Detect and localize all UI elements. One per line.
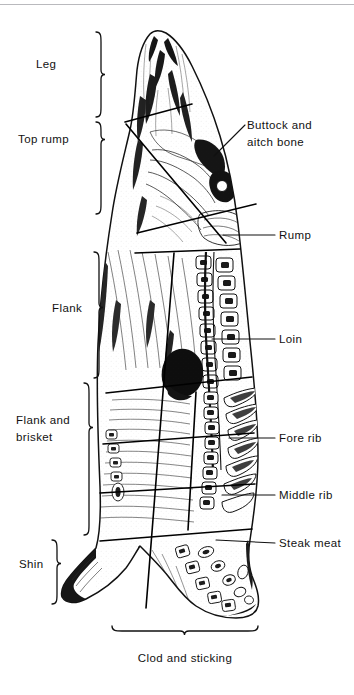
label-flank-and-brisket-line1: Flank and: [16, 413, 70, 427]
bracket-shin: [52, 540, 61, 604]
label-middle-rib: Middle rib: [279, 488, 333, 502]
bracket-flank-brisket: [84, 383, 93, 535]
label-rump: Rump: [279, 228, 311, 242]
label-flank-and-brisket-line2: brisket: [16, 430, 53, 444]
label-leg: Leg: [36, 57, 56, 71]
label-fore-rib: Fore rib: [279, 431, 322, 445]
label-shin: Shin: [19, 557, 44, 571]
bracket-top-rump: [96, 122, 105, 214]
bracket-clod-sticking: [112, 626, 258, 635]
label-clod-and-sticking: Clod and sticking: [105, 651, 265, 665]
bottom-bracket: [112, 626, 258, 635]
label-flank: Flank: [52, 301, 82, 315]
diagram-page: Leg Top rump Flank Flank and brisket Shi…: [0, 0, 354, 695]
label-steak-meat: Steak meat: [279, 536, 341, 550]
label-loin: Loin: [279, 332, 302, 346]
label-aitch-bone-line2: aitch bone: [247, 135, 304, 149]
left-brackets: [52, 32, 105, 604]
label-top-rump: Top rump: [18, 132, 69, 146]
beef-carcass-illustration: [0, 0, 354, 695]
label-buttock-and-line1: Buttock and: [247, 118, 312, 132]
bracket-leg: [96, 32, 105, 117]
